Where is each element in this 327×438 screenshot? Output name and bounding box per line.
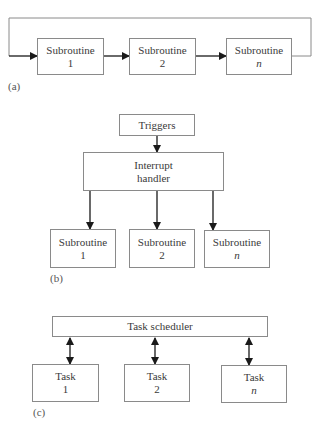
subroutine-n-box: Subroutine n [226, 38, 292, 75]
box-title: Subroutine [235, 44, 283, 57]
panel-c-label: (c) [33, 406, 45, 418]
box-index: 1 [68, 57, 74, 70]
box-title: Interrupt [134, 159, 172, 172]
box-subtitle: handler [137, 172, 170, 185]
panel-b-label: (b) [50, 272, 63, 284]
box-index: 2 [159, 249, 165, 262]
box-title: Task [244, 371, 265, 384]
subroutine-1-box: Subroutine 1 [50, 229, 116, 268]
box-title: Task scheduler [127, 320, 193, 333]
interrupt-handler-box: Interrupt handler [83, 152, 224, 191]
box-title: Subroutine [59, 236, 107, 249]
task-1-box: Task 1 [32, 364, 99, 402]
subroutine-2-box: Subroutine 2 [129, 38, 196, 75]
box-index: 1 [63, 383, 69, 396]
box-title: Subroutine [138, 236, 186, 249]
subroutine-1-box: Subroutine 1 [37, 38, 104, 75]
task-scheduler-box: Task scheduler [52, 316, 268, 337]
task-2-box: Task 2 [124, 364, 190, 402]
box-title: Triggers [139, 119, 176, 132]
box-index: 1 [80, 249, 86, 262]
box-title: Task [55, 370, 76, 383]
subroutine-2-box: Subroutine 2 [129, 229, 195, 268]
box-index: n [256, 57, 262, 70]
panel-a-label: (a) [8, 80, 20, 92]
box-index: n [251, 384, 257, 397]
triggers-box: Triggers [119, 114, 195, 136]
box-title: Task [147, 370, 168, 383]
subroutine-n-box: Subroutine n [204, 230, 270, 268]
box-index: n [234, 249, 240, 262]
panel-c-arrows [70, 338, 249, 365]
box-title: Subroutine [46, 44, 94, 57]
box-title: Subroutine [138, 44, 186, 57]
box-title: Subroutine [213, 236, 261, 249]
box-index: 2 [160, 57, 166, 70]
box-index: 2 [154, 383, 160, 396]
task-n-box: Task n [221, 365, 287, 403]
